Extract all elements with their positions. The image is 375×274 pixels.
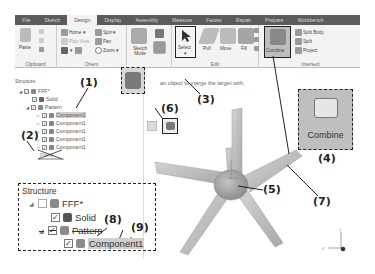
collapse-icon: ◢	[39, 227, 44, 234]
checkbox: ✓	[51, 213, 60, 222]
zoomed-tree-item-solid: ✓Solid	[51, 212, 96, 223]
svg-text:X: X	[322, 246, 325, 251]
zoomed-tree-item-fff: ◢FFF*	[29, 198, 83, 209]
svg-text:Y: Y	[339, 228, 342, 233]
zoomed-structure-panel: Structure ◢FFF* ✓Solid ◢✓Pattern ✓Compon…	[18, 183, 156, 251]
component-icon	[76, 239, 85, 248]
callout-6: (6)	[161, 102, 179, 115]
callout-5: (5)	[263, 183, 281, 196]
callout-1: (1)	[80, 76, 98, 89]
callout-7: (7)	[313, 195, 331, 208]
callout-2: (2)	[21, 129, 39, 142]
callout-8: (8)	[104, 213, 122, 226]
solid-icon	[63, 213, 72, 222]
zoomed-structure-title: Structure	[22, 186, 57, 196]
zoomed-tree-item-component1: ✓Component1	[64, 238, 144, 249]
combine-icon	[314, 98, 338, 118]
axis-triad-icon: Y X	[322, 228, 345, 251]
zoomed-combine-button: Combine	[298, 89, 353, 150]
checkbox: ✓	[64, 239, 73, 248]
checkbox	[38, 199, 47, 208]
collapse-icon: ◢	[29, 200, 34, 207]
callout-3: (3)	[197, 93, 215, 106]
pattern-icon	[60, 226, 69, 235]
checkbox: ✓	[48, 226, 57, 235]
callout-4: (4)	[318, 152, 336, 165]
document-icon	[50, 199, 59, 208]
callout-9: (9)	[131, 221, 149, 234]
zoomed-tree-item-pattern: ◢✓Pattern	[39, 225, 103, 236]
zoomed-combine-label: Combine	[299, 130, 352, 140]
